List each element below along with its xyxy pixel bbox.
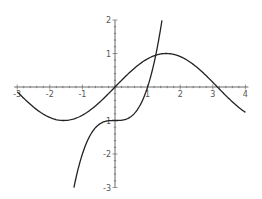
y-tick-label: -2 — [103, 150, 111, 159]
x-tick-label: -1 — [78, 90, 86, 99]
x-tick-label: 4 — [243, 90, 248, 99]
plot: -3-2-11234-3-2-112 — [0, 0, 262, 199]
x-tick-label: -2 — [46, 90, 54, 99]
y-tick-label: -3 — [103, 184, 111, 193]
y-tick-label: 2 — [106, 16, 111, 25]
x-tick-label: 3 — [210, 90, 215, 99]
y-tick-label: 1 — [106, 50, 111, 59]
x-tick-label: 2 — [178, 90, 183, 99]
series-line-cubic — [74, 20, 162, 187]
